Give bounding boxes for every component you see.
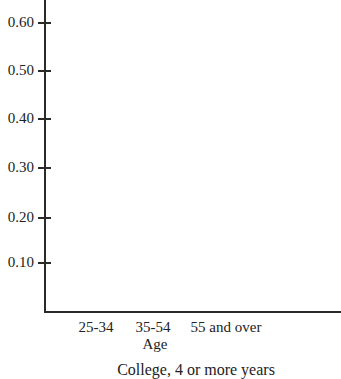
y-tick <box>38 167 51 169</box>
x-axis-title: Age <box>143 336 168 352</box>
y-tick <box>38 217 51 219</box>
y-tick-label: 0.30 <box>8 159 34 175</box>
x-category-label: 25-34 <box>79 319 114 335</box>
y-tick <box>38 22 51 24</box>
x-axis-line <box>44 311 341 313</box>
y-tick-label: 0.10 <box>8 254 34 270</box>
y-tick <box>38 70 51 72</box>
y-tick-label: 0.50 <box>8 62 34 78</box>
chart-caption: College, 4 or more years <box>117 361 275 379</box>
y-axis-line <box>44 0 46 313</box>
y-tick-label: 0.20 <box>8 209 34 225</box>
y-tick-label: 0.40 <box>8 110 34 126</box>
y-tick <box>38 262 51 264</box>
y-tick <box>38 118 51 120</box>
x-category-label: 35-54 <box>136 319 171 335</box>
x-category-label: 55 and over <box>191 319 262 335</box>
y-tick-label: 0.60 <box>8 14 34 30</box>
